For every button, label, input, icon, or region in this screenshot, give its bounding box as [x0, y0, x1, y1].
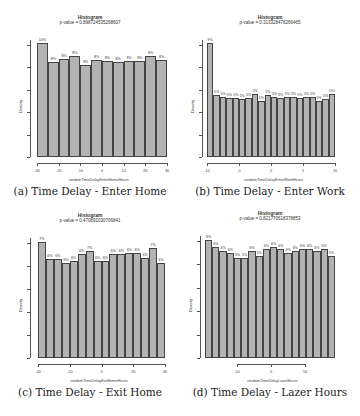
y-tick: [27, 112, 30, 113]
x-tick: [239, 163, 240, 166]
x-tick: [303, 163, 304, 166]
y-tick: [27, 335, 30, 336]
x-axis-label: randomTimeDelayEnterWorkHours: [180, 178, 360, 182]
x-tick-label: 20: [143, 169, 147, 173]
histogram-bar: 5%: [234, 258, 241, 358]
histogram-bar: 5%: [241, 258, 248, 358]
y-axis-label: Density: [188, 298, 193, 311]
bar-percent-label: 5%: [309, 92, 317, 96]
histogram-bar: 6%: [46, 259, 54, 358]
x-axis-label: randomTimeDelayLazerHours: [180, 379, 360, 383]
x-tick-label: 0: [100, 370, 102, 374]
x-tick: [37, 163, 38, 166]
plot-area: 9%5%5%5%5%5%5%5%5%5%5%5%5%5%5%5%5%5%5%5%: [207, 40, 335, 157]
bar-percent-label: 6%: [156, 258, 166, 262]
x-tick-label: 40: [163, 370, 167, 374]
histogram-bar: 6%: [157, 263, 165, 358]
figure-caption: (a) Time Delay - Enter Home: [0, 185, 180, 197]
histogram-bar: 6%: [62, 263, 70, 358]
histogram-bar: 6%: [292, 251, 299, 358]
y-axis: [30, 40, 31, 157]
histogram-bar: 6%: [117, 254, 125, 358]
histogram-bar: 8%: [59, 59, 70, 157]
y-tick: [27, 45, 30, 46]
bar-percent-label: 6%: [132, 248, 142, 252]
y-axis-label: Density: [190, 99, 195, 112]
p-value-subtitle: p-value = 0.470891030706841: [0, 218, 180, 223]
x-tick: [124, 163, 125, 166]
histogram-bar: 6%: [205, 240, 212, 358]
p-value-subtitle: p-value = 0.821770618378853: [180, 216, 360, 221]
y-axis: [200, 236, 201, 358]
y-tick: [197, 241, 200, 242]
y-tick: [27, 289, 30, 290]
histogram-bar: 8%: [134, 61, 145, 157]
bar-percent-label: 6%: [247, 246, 256, 250]
histogram-bar: 8%: [69, 56, 80, 157]
histogram-bar: 8%: [124, 61, 135, 157]
y-tick: [27, 358, 30, 359]
x-tick-label: 10: [122, 169, 126, 173]
x-tick: [167, 163, 168, 166]
y-tick: [199, 157, 202, 158]
y-tick: [199, 135, 202, 136]
histogram-bar: 8%: [91, 60, 102, 157]
figure-caption: (d) Time Delay - Lazer Hours: [180, 386, 360, 398]
x-tick: [80, 163, 81, 166]
x-axis-label: randomTimeDelayExitHomeHours: [0, 379, 180, 383]
y-tick: [197, 288, 200, 289]
histogram-bar: 5%: [256, 256, 263, 358]
bar-percent-label: 7%: [37, 237, 47, 241]
x-tick: [59, 163, 60, 166]
y-tick: [199, 67, 202, 68]
histogram-bar: 6%: [284, 253, 291, 358]
x-tick-label: -20: [56, 169, 62, 173]
histogram-bar: 6%: [141, 258, 149, 358]
x-tick: [335, 163, 336, 166]
y-axis: [30, 238, 31, 358]
y-tick: [27, 243, 30, 244]
histogram-bar: 6%: [227, 253, 234, 358]
x-tick-label: -30: [34, 169, 40, 173]
figure-caption: (b) Time Delay - Enter Work: [180, 185, 360, 197]
histogram-bar: 6%: [54, 259, 62, 358]
histogram-panel-3: Histogramp-value = 0.8217706183788536%6%…: [180, 208, 360, 416]
histogram-bar: 6%: [125, 253, 133, 358]
histogram-bar: 6%: [102, 261, 110, 358]
x-tick-label: 5: [302, 169, 304, 173]
x-tick: [237, 364, 238, 367]
y-tick: [27, 90, 30, 91]
p-value-subtitle: p-value = 0.313328478266465: [180, 20, 360, 25]
histogram-bar: 6%: [248, 251, 255, 358]
x-tick-label: -50: [234, 370, 240, 374]
bar-percent-label: 6%: [226, 248, 235, 252]
y-tick: [199, 112, 202, 113]
y-tick: [197, 358, 200, 359]
bars: 9%5%5%5%5%5%5%5%5%5%5%5%5%5%5%5%5%5%5%5%: [207, 40, 335, 157]
histogram-bar: 8%: [48, 62, 59, 157]
x-tick: [70, 364, 71, 367]
histogram-bar: 6%: [277, 249, 284, 358]
x-tick: [271, 163, 272, 166]
x-tick: [133, 364, 134, 367]
bars: 7%6%6%6%6%6%7%6%6%6%6%6%6%6%7%6%: [38, 238, 165, 358]
histogram-panel-1: Histogramp-value = 0.3133284782664659%5%…: [180, 0, 360, 208]
histogram-bar: 6%: [270, 247, 277, 358]
p-value-subtitle: p-value = 0.898724535268607: [0, 20, 180, 25]
histogram-bar: 6%: [299, 249, 306, 358]
y-tick: [27, 135, 30, 136]
bar-percent-label: 5%: [327, 251, 336, 255]
x-tick-label: 50: [303, 370, 307, 374]
histogram-panel-2: Histogramp-value = 0.4708910307068417%6%…: [0, 208, 180, 416]
bar-percent-label: 5%: [328, 89, 336, 93]
histogram-bar: 6%: [321, 249, 328, 358]
x-tick-label: 0: [270, 169, 272, 173]
y-tick: [27, 157, 30, 158]
bar-percent-label: 7%: [148, 243, 158, 247]
histogram-bar: 6%: [133, 253, 141, 358]
y-tick: [27, 67, 30, 68]
histogram-bar: 6%: [263, 249, 270, 358]
histogram-bar: 7%: [149, 248, 157, 358]
bar-percent-label: 5%: [251, 89, 259, 93]
x-tick: [305, 364, 306, 367]
